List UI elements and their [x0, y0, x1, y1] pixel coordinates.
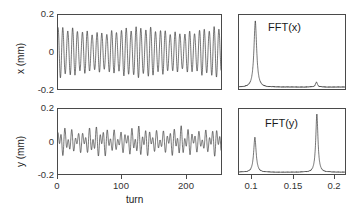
ylabel-y-mm: y (mm) [16, 136, 26, 167]
ytick-x-mid: 0 [24, 47, 54, 57]
fft-xtick-0p2: 0.2 [322, 181, 346, 191]
ylabel-x-mm: x (mm) [16, 43, 26, 74]
xtick-turn-0: 0 [45, 181, 69, 191]
ytick-y-bot: -0.2 [24, 170, 54, 180]
ytick-y-mid: 0 [24, 137, 54, 147]
panel-y-vs-turn [57, 108, 222, 175]
ytick-x-top: 0.2 [24, 9, 54, 19]
xtick-turn-100: 100 [109, 181, 133, 191]
ytick-x-bot: -0.2 [24, 85, 54, 95]
x-vs-turn-trace [58, 15, 221, 89]
xtick-turn-200: 200 [174, 181, 198, 191]
fft-xtick-0p15: 0.15 [280, 181, 306, 191]
fft-y-label: FFT(y) [265, 118, 298, 129]
ytick-y-top: 0.2 [24, 103, 54, 113]
panel-x-vs-turn [57, 14, 222, 90]
fft-xtick-0p1: 0.1 [239, 181, 263, 191]
fft-xtick-mark-0p1 [251, 175, 252, 179]
figure-canvas: 0.2 0 -0.2 x (mm) 0.2 0 -0.2 y (mm) 0 10… [0, 0, 353, 213]
fft-xtick-mark-0p15 [293, 175, 294, 179]
xtick-mark-200 [186, 175, 187, 179]
xtick-mark-100 [121, 175, 122, 179]
xtick-mark-0 [57, 175, 58, 179]
xlabel-turn: turn [126, 195, 143, 205]
fft-x-label: FFT(x) [268, 22, 301, 33]
fft-xtick-mark-0p2 [334, 175, 335, 179]
y-vs-turn-trace [58, 109, 221, 174]
